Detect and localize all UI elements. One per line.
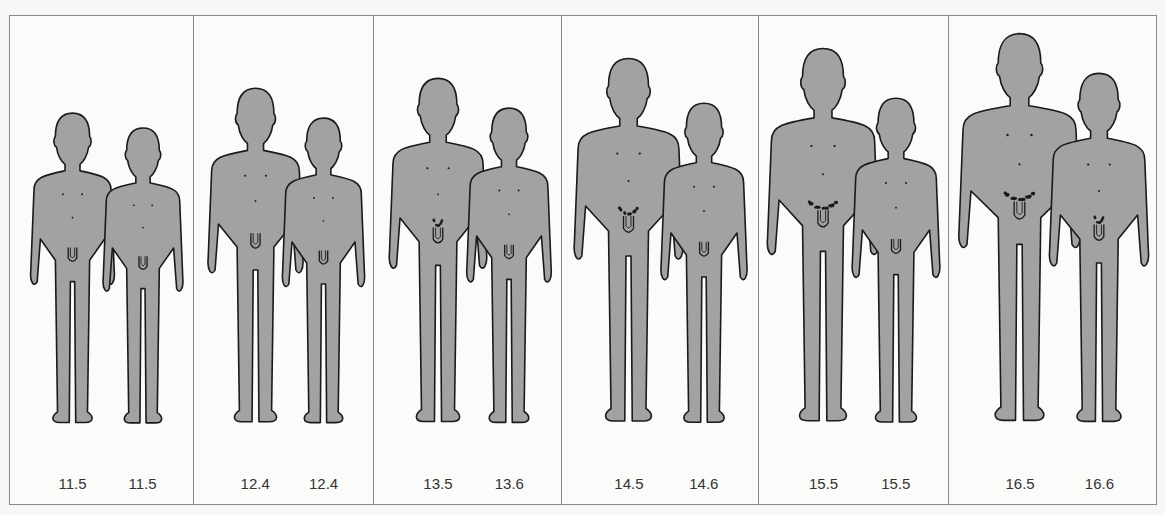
stage-panel-4: 14.5 14.6 — [562, 16, 759, 504]
age-label: 11.5 — [59, 475, 87, 492]
age-label: 12.4 — [309, 475, 338, 492]
stage-panel-1: 11.5 11.5 — [10, 16, 194, 504]
diagram-frame: 11.5 11.5 12.4 12.4 — [9, 15, 1157, 505]
figure-right — [92, 126, 194, 431]
figure-right — [840, 96, 952, 431]
stage-panel-6: 16.5 16.6 — [949, 16, 1158, 504]
age-label: 14.6 — [689, 475, 718, 492]
age-label: 16.5 — [1005, 475, 1034, 492]
figure-right — [455, 106, 563, 431]
age-label: 12.4 — [241, 475, 270, 492]
age-label: 14.5 — [614, 475, 643, 492]
age-label: 15.5 — [809, 475, 838, 492]
figure-right — [649, 101, 759, 431]
age-label: 16.6 — [1085, 475, 1114, 492]
stage-panel-5: 15.5 15.5 — [759, 16, 949, 504]
figure-right — [1039, 71, 1159, 431]
figure-right — [271, 116, 376, 431]
age-label: 13.6 — [495, 475, 524, 492]
age-label: 11.5 — [128, 475, 156, 492]
age-label: 15.5 — [881, 475, 910, 492]
stage-panel-3: 13.5 13.6 — [374, 16, 562, 504]
age-label: 13.5 — [423, 475, 452, 492]
stage-panel-2: 12.4 12.4 — [194, 16, 374, 504]
